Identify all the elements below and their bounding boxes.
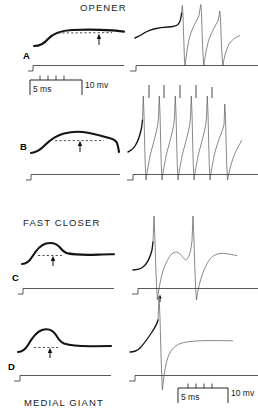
panel-a-right-group xyxy=(130,5,258,72)
panel-letter-b: B xyxy=(20,142,27,152)
panel-c-left-stimulus-trace xyxy=(18,289,114,295)
panel-c-right-ramp-trace xyxy=(133,242,153,270)
panel-d-right-ramp-trace xyxy=(130,320,158,352)
panel-letter-a: A xyxy=(23,51,30,61)
panel-b-right-spike-6 xyxy=(224,104,242,180)
panel-a-right-spike-2 xyxy=(200,5,219,67)
panel-b-right-spike-2 xyxy=(159,96,175,180)
panel-b-right-spike-5 xyxy=(207,96,225,180)
panel-a-left-stimulus-trace xyxy=(28,66,124,72)
panel-d-right-stimulus-trace xyxy=(129,376,258,382)
panel-b-right-ramp-trace xyxy=(128,120,143,152)
panel-letter-d: D xyxy=(8,362,15,372)
panel-d-right-group xyxy=(129,296,258,390)
panel-c-right-spike-2 xyxy=(192,216,237,300)
panel-c-left-group xyxy=(18,243,114,294)
figure-title-medial-giant: MEDIAL GIANT xyxy=(24,398,104,408)
panel-b-left-arrow-marker xyxy=(78,141,82,152)
panel-c-left-trace xyxy=(22,243,114,264)
panel-a-right-spike-3 xyxy=(219,11,240,66)
panel-a-right-stimulus-trace xyxy=(130,66,258,72)
panel-c-right-stimulus-trace xyxy=(132,289,258,295)
panel-b-right-spike-1 xyxy=(143,96,159,180)
panel-b-right-group xyxy=(127,96,258,180)
scalebar-bottom-voltage-label: 10 mv xyxy=(231,389,254,398)
figure-canvas: OPENER A B FAST CLOSER C D MEDIAL GIANT … xyxy=(0,0,258,415)
panel-b-left-stimulus-trace xyxy=(26,175,120,181)
panel-a-right-ramp-trace xyxy=(135,13,182,38)
panel-a-right-stim-pips xyxy=(149,85,212,98)
scalebar-top-voltage-label: 10 mv xyxy=(85,81,108,90)
panel-b-right-spike-4 xyxy=(191,96,207,180)
panel-d-left-trace xyxy=(18,329,111,352)
panel-b-left-group xyxy=(26,132,120,180)
panel-c-left-arrow-marker xyxy=(51,256,55,266)
panel-a-right-spike-1 xyxy=(182,6,200,67)
panel-c-right-spike-1 xyxy=(153,216,192,300)
scalebar-bottom-time-label: 5 ms xyxy=(181,393,199,402)
figure-title-fast-closer: FAST CLOSER xyxy=(23,218,100,228)
panel-d-left-group xyxy=(14,329,111,381)
panel-a-left-group xyxy=(28,30,124,71)
panel-a-left-trace xyxy=(34,30,124,46)
panel-b-right-spike-3 xyxy=(175,96,191,180)
panel-c-right-group xyxy=(132,216,258,302)
panel-b-left-trace xyxy=(31,132,119,153)
figure-title-opener: OPENER xyxy=(80,3,127,13)
scalebar-top-time-label: 5 ms xyxy=(33,85,51,94)
traces-svg xyxy=(0,0,258,415)
panel-d-left-stimulus-trace xyxy=(14,376,111,382)
panel-d-left-arrow-marker xyxy=(48,348,52,358)
panel-a-left-arrow-marker xyxy=(97,34,101,45)
panel-letter-c: C xyxy=(12,273,19,283)
